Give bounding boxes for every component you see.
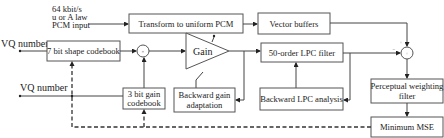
shape-codebook-arrowhead: [70, 61, 75, 66]
svg-text:50-order LPC filter: 50-order LPC filter: [269, 48, 335, 58]
svg-text:Backward LPC analysis: Backward LPC analysis: [260, 94, 343, 104]
perceptual-weighting-block: Perceptual weighting filter: [371, 79, 444, 103]
backward-lpc-block: Backward LPC analysis: [260, 88, 343, 110]
gain-output-feedback: [236, 51, 244, 100]
svg-text:Minimum MSE: Minimum MSE: [380, 122, 434, 132]
encoder-diagram: 64 kbit/s u or A law PCM input Transform…: [0, 0, 444, 138]
minimum-mse-block: Minimum MSE: [371, 117, 443, 137]
gain-codebook-block: 3 bit gain codebook: [123, 88, 165, 109]
svg-text:Perceptual weighting: Perceptual weighting: [371, 81, 444, 91]
lpc-filter-block: 50-order LPC filter: [261, 43, 343, 62]
vq-number-shape-label: VQ number: [1, 38, 49, 49]
svg-text:×: ×: [142, 49, 145, 54]
svg-text:+: +: [406, 51, 409, 56]
gain-control-dot: [213, 35, 215, 37]
svg-text:PCM input: PCM input: [52, 20, 91, 30]
pcm-input-label: 64 kbit/s u or A law PCM input: [52, 4, 91, 30]
vq-number-gain-label: VQ number: [20, 82, 68, 93]
svg-text:+: +: [400, 40, 403, 45]
junction-dot: [71, 95, 73, 97]
svg-text:codebook: codebook: [127, 98, 161, 108]
multiplier-node: ×: [137, 45, 149, 57]
gain-control-tick: [212, 37, 214, 42]
shape-codebook-block: 7 bit shape codebook: [47, 41, 121, 61]
vq-gain-terminal: [19, 95, 21, 97]
adder-node: + + −: [393, 40, 413, 59]
lpc-output-feedback: [344, 53, 350, 100]
svg-text:−: −: [393, 47, 396, 52]
svg-text:Gain: Gain: [193, 46, 212, 57]
backward-gain-to-gain: [196, 72, 203, 89]
vector-buffers-block: Vector buffers: [258, 13, 330, 34]
svg-text:filter: filter: [399, 91, 416, 101]
svg-text:adaptation: adaptation: [187, 100, 223, 110]
svg-text:7 bit shape codebook: 7 bit shape codebook: [47, 46, 120, 56]
svg-text:Transform to uniform PCM: Transform to uniform PCM: [139, 19, 234, 29]
backward-gain-block: Backward gain adaptation: [174, 88, 235, 112]
gain-amplifier: Gain: [186, 33, 229, 69]
vq-shape-terminal: [19, 50, 21, 52]
transform-block: Transform to uniform PCM: [129, 14, 243, 33]
svg-text:Backward gain: Backward gain: [179, 90, 231, 100]
svg-text:Vector buffers: Vector buffers: [270, 19, 319, 29]
gain-codebook-arrowhead: [142, 109, 147, 114]
